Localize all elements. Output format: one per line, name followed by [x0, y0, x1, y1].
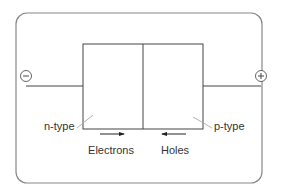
- holes-label: Holes: [161, 144, 190, 156]
- electrons-label: Electrons: [88, 144, 134, 156]
- n-type-label: n-type: [44, 120, 75, 132]
- pn-junction-diagram: n-type p-type Electrons Holes: [0, 0, 284, 194]
- plus-circle-icon: [256, 71, 267, 82]
- minus-circle-icon: [21, 71, 32, 82]
- diagram-frame: [16, 13, 262, 183]
- p-type-label: p-type: [214, 120, 245, 132]
- n-type-leader-line: [77, 115, 93, 128]
